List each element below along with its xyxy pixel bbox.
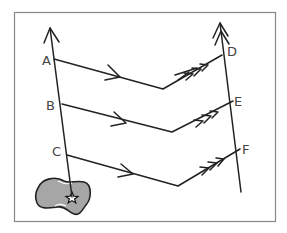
label-c: C — [52, 144, 61, 159]
label-e: E — [234, 94, 242, 109]
label-a: A — [42, 53, 51, 68]
label-d: D — [227, 44, 237, 59]
diagram: A B C D E F — [0, 0, 287, 233]
label-b: B — [46, 98, 55, 113]
label-f: F — [242, 142, 249, 157]
